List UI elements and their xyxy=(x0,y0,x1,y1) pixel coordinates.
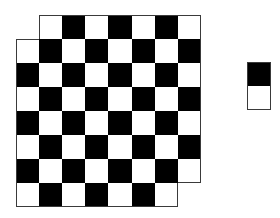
mutilated-checkerboard xyxy=(0,0,280,218)
dark-square xyxy=(108,159,132,183)
light-square xyxy=(108,87,132,111)
light-square xyxy=(178,15,201,39)
domino-dark-square xyxy=(248,63,270,86)
dark-square xyxy=(155,159,178,183)
dark-square xyxy=(39,183,62,207)
light-square xyxy=(62,135,85,159)
light-square xyxy=(132,111,155,135)
light-square xyxy=(178,111,201,135)
light-square xyxy=(39,63,62,87)
dark-square xyxy=(155,15,178,39)
light-square xyxy=(62,87,85,111)
dark-square xyxy=(178,135,201,159)
light-square xyxy=(108,135,132,159)
dark-square xyxy=(85,135,108,159)
dark-square xyxy=(108,63,132,87)
light-square xyxy=(16,39,39,63)
light-square xyxy=(85,15,108,39)
domino xyxy=(247,62,271,110)
light-square xyxy=(155,39,178,63)
light-square xyxy=(132,159,155,183)
light-square xyxy=(132,15,155,39)
dark-square xyxy=(85,183,108,207)
dark-square xyxy=(155,63,178,87)
dark-square xyxy=(16,111,39,135)
light-square xyxy=(85,111,108,135)
light-square xyxy=(85,63,108,87)
dark-square xyxy=(39,87,62,111)
light-square xyxy=(155,87,178,111)
dark-square xyxy=(85,87,108,111)
dark-square xyxy=(62,15,85,39)
light-square xyxy=(62,183,85,207)
light-square xyxy=(16,135,39,159)
dark-square xyxy=(155,111,178,135)
dark-square xyxy=(108,15,132,39)
dark-square xyxy=(39,39,62,63)
dark-square xyxy=(132,183,155,207)
light-square xyxy=(16,87,39,111)
light-square xyxy=(108,183,132,207)
dark-square xyxy=(39,135,62,159)
dark-square xyxy=(108,111,132,135)
light-square xyxy=(39,15,62,39)
light-square xyxy=(39,159,62,183)
light-square xyxy=(108,39,132,63)
light-square xyxy=(132,63,155,87)
light-square xyxy=(155,135,178,159)
dark-square xyxy=(132,39,155,63)
dark-square xyxy=(62,159,85,183)
light-square xyxy=(39,111,62,135)
dark-square xyxy=(132,135,155,159)
dark-square xyxy=(132,87,155,111)
dark-square xyxy=(62,111,85,135)
dark-square xyxy=(16,159,39,183)
light-square xyxy=(155,183,178,207)
dark-square xyxy=(62,63,85,87)
light-square xyxy=(178,159,201,183)
dark-square xyxy=(178,87,201,111)
dark-square xyxy=(178,39,201,63)
dark-square xyxy=(85,39,108,63)
light-square xyxy=(85,159,108,183)
light-square xyxy=(62,39,85,63)
light-square xyxy=(16,183,39,207)
domino-light-square xyxy=(248,86,270,109)
light-square xyxy=(178,63,201,87)
dark-square xyxy=(16,63,39,87)
